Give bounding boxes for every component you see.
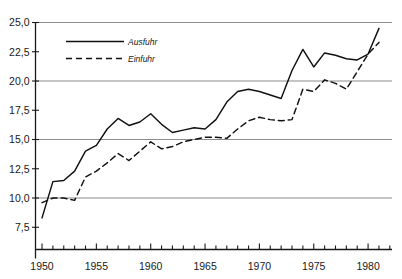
y-tick-label-25: 25,0 bbox=[9, 16, 30, 28]
y-tick-label-17-5: 17,5 bbox=[9, 104, 30, 116]
x-tick-label-1965: 1965 bbox=[193, 260, 217, 272]
chart-canvas: 7,510,012,515,017,520,022,525,0 19501955… bbox=[0, 0, 402, 279]
chart-legend: AusfuhrEinfuhr bbox=[66, 37, 158, 64]
gridlines-group bbox=[36, 23, 393, 199]
y-axis-tick-labels: 7,510,012,515,017,520,022,525,0 bbox=[9, 16, 30, 233]
data-series-group bbox=[42, 28, 379, 218]
legend-label-einfuhr: Einfuhr bbox=[128, 54, 156, 64]
x-axis-tick-marks bbox=[42, 244, 390, 250]
y-tick-label-22-5: 22,5 bbox=[9, 46, 30, 58]
x-tick-label-1980: 1980 bbox=[356, 260, 380, 272]
x-tick-label-1975: 1975 bbox=[302, 260, 326, 272]
series-line-ausfuhr bbox=[42, 28, 379, 218]
y-tick-label-20: 20,0 bbox=[9, 75, 30, 87]
x-tick-label-1955: 1955 bbox=[85, 260, 109, 272]
legend-label-ausfuhr: Ausfuhr bbox=[127, 37, 158, 47]
line-chart-container: 7,510,012,515,017,520,022,525,0 19501955… bbox=[0, 0, 402, 279]
y-tick-label-15: 15,0 bbox=[9, 133, 30, 145]
x-tick-label-1950: 1950 bbox=[30, 260, 54, 272]
y-tick-label-7-5: 7,5 bbox=[15, 221, 30, 233]
y-tick-label-10: 10,0 bbox=[9, 192, 30, 204]
y-tick-label-12-5: 12,5 bbox=[9, 163, 30, 175]
x-tick-label-1960: 1960 bbox=[139, 260, 163, 272]
series-line-einfuhr bbox=[42, 42, 379, 202]
x-tick-label-1970: 1970 bbox=[248, 260, 272, 272]
x-axis-tick-labels: 1950195519601965197019751980 bbox=[30, 260, 380, 272]
